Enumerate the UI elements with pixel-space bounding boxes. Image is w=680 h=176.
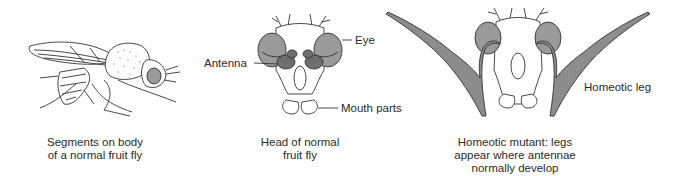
caption-normal-head: Head of normal fruit fly bbox=[240, 136, 360, 162]
mutant-right-eye bbox=[535, 22, 561, 54]
mouth-parts-label: Mouth parts bbox=[341, 102, 402, 115]
mutant-head-illustration bbox=[386, 8, 650, 116]
caption-normal-body: Segments on body of a normal fruit fly bbox=[20, 136, 170, 162]
caption-line: Head of normal bbox=[240, 136, 360, 149]
homeotic-leg-label: Homeotic leg bbox=[584, 81, 651, 94]
antenna-label: Antenna bbox=[204, 57, 247, 70]
mutant-left-eye bbox=[475, 22, 501, 54]
caption-line: fruit fly bbox=[240, 149, 360, 162]
caption-line: Homeotic mutant: legs bbox=[440, 136, 590, 149]
caption-mutant: Homeotic mutant: legs appear where anten… bbox=[440, 136, 590, 175]
caption-line: Segments on body bbox=[20, 136, 170, 149]
fly-eye bbox=[147, 68, 161, 84]
caption-line: normally develop bbox=[440, 162, 590, 175]
normal-head-illustration bbox=[254, 14, 352, 114]
normal-fly-illustration bbox=[29, 42, 180, 116]
caption-line: of a normal fruit fly bbox=[20, 149, 170, 162]
caption-line: appear where antennae bbox=[440, 149, 590, 162]
mouth-parts bbox=[283, 100, 318, 114]
eye-label: Eye bbox=[355, 34, 375, 47]
